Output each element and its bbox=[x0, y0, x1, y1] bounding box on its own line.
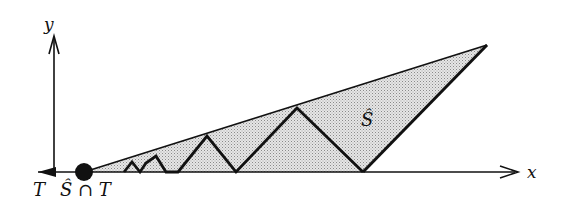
diagram-canvas: y x Ŝ T Ŝ ∩ T bbox=[0, 0, 570, 211]
x-axis-label: x bbox=[527, 162, 537, 182]
y-axis-label: y bbox=[43, 14, 54, 34]
region-label: Ŝ bbox=[361, 108, 373, 130]
intersection-label: Ŝ ∩ T bbox=[60, 178, 113, 200]
t-label: T bbox=[33, 179, 47, 200]
